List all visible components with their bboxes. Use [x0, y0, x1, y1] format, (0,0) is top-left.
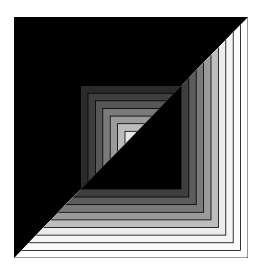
inner-bands-graphic	[14, 17, 248, 258]
illusion-figure	[14, 17, 248, 258]
figure-caption	[20, 2, 220, 12]
inner-staircase	[14, 17, 248, 258]
